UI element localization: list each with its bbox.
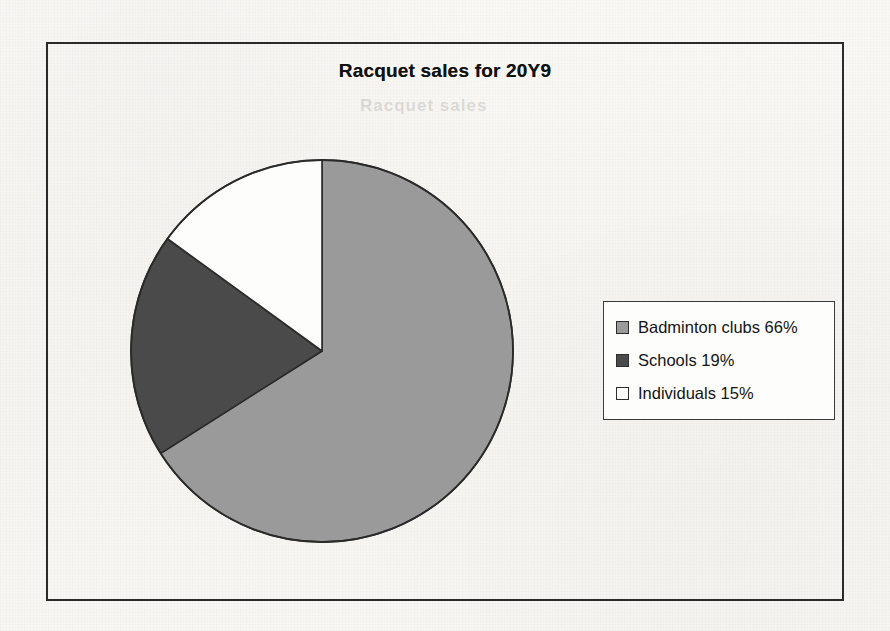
chart-title: Racquet sales for 20Y9 [48, 60, 842, 82]
legend-item-individuals: Individuals 15% [616, 377, 834, 410]
legend-item-badminton-clubs: Badminton clubs 66% [616, 311, 834, 344]
legend-label-individuals: Individuals 15% [638, 385, 754, 402]
chart-legend: Badminton clubs 66% Schools 19% Individu… [603, 301, 835, 420]
legend-swatch-schools [616, 354, 629, 367]
legend-label-schools: Schools 19% [638, 352, 734, 369]
legend-item-schools: Schools 19% [616, 344, 834, 377]
chart-frame: Racquet sales for 20Y9 Badminton clubs 6… [46, 42, 844, 601]
scanned-page: Racquet sales clubs 66% Racquet sales fo… [0, 0, 890, 631]
legend-swatch-badminton-clubs [616, 321, 629, 334]
legend-swatch-individuals [616, 387, 629, 400]
pie-chart [129, 158, 515, 544]
legend-label-badminton-clubs: Badminton clubs 66% [638, 319, 798, 336]
pie-chart-svg [129, 158, 515, 544]
